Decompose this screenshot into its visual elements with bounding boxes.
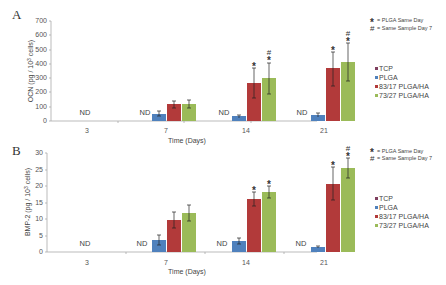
svg-text:= Same Sample Day 7: = Same Sample Day 7 <box>377 25 432 31</box>
chart-b-x-ticks: 3 7 14 21 <box>85 259 328 266</box>
svg-text:*: * <box>267 179 271 190</box>
svg-text:200: 200 <box>35 88 47 95</box>
nd-label: ND <box>140 108 151 117</box>
nd-label: ND <box>297 108 308 117</box>
chart-b-notes: * = PLGA Same Day # = Same Sample Day 7 <box>370 147 432 163</box>
svg-text:14: 14 <box>242 259 250 266</box>
svg-text:14: 14 <box>242 127 250 134</box>
panel-label-b: B <box>12 143 21 158</box>
svg-text:*: * <box>331 160 335 171</box>
svg-text:PLGA: PLGA <box>379 74 398 81</box>
chart-a-x-label: Time (Days) <box>168 137 206 145</box>
svg-text:400: 400 <box>35 60 47 67</box>
svg-text:= PLGA Same Day: = PLGA Same Day <box>377 148 424 154</box>
panel-label-a: A <box>12 7 22 22</box>
nd-label: ND <box>296 239 307 248</box>
svg-text:7: 7 <box>164 259 168 266</box>
chart-a-significance: * * # * * # <box>252 29 351 72</box>
svg-text:#: # <box>346 144 351 153</box>
chart-a-notes: * = PLGA Same Day # = Same Sample Day 7 <box>370 17 432 33</box>
svg-text:73/27 PLGA/HA: 73/27 PLGA/HA <box>379 92 429 99</box>
chart-b-x-label: Time (Days) <box>168 268 206 276</box>
svg-text:21: 21 <box>320 259 328 266</box>
chart-b-bars <box>152 168 355 252</box>
svg-text:*: * <box>252 185 256 196</box>
svg-text:*: * <box>331 45 335 56</box>
svg-text:15: 15 <box>35 199 43 206</box>
svg-text:*: * <box>252 61 256 72</box>
svg-text:73/27 PLGA/HA: 73/27 PLGA/HA <box>379 222 429 229</box>
svg-text:#: # <box>370 154 375 163</box>
figure: A 0 100 200 300 400 500 600 700 OCN (pg … <box>0 0 446 285</box>
chart-b-y-label: BMP-2 (pg / 103 cells) <box>23 168 32 236</box>
nd-label: ND <box>137 239 148 248</box>
svg-text:3: 3 <box>85 127 89 134</box>
svg-text:600: 600 <box>35 31 47 38</box>
svg-text:20: 20 <box>35 182 43 189</box>
svg-text:0: 0 <box>39 248 43 255</box>
svg-text:25: 25 <box>35 166 43 173</box>
svg-text:TCP: TCP <box>379 195 393 202</box>
svg-text:100: 100 <box>35 103 47 110</box>
svg-text:= PLGA Same Day: = PLGA Same Day <box>377 17 424 23</box>
svg-text:5: 5 <box>39 232 43 239</box>
svg-text:83/17 PLGA/HA: 83/17 PLGA/HA <box>379 83 429 90</box>
nd-label: ND <box>80 239 91 248</box>
svg-text:#: # <box>370 24 375 33</box>
svg-text:83/17 PLGA/HA: 83/17 PLGA/HA <box>379 213 429 220</box>
chart-a-y-label: OCN (pg / 103 cells) <box>26 40 35 102</box>
svg-text:30: 30 <box>35 149 43 156</box>
svg-text:#: # <box>346 29 351 38</box>
svg-text:300: 300 <box>35 74 47 81</box>
svg-text:0: 0 <box>43 117 47 124</box>
svg-text:500: 500 <box>35 46 47 53</box>
nd-label: ND <box>80 108 91 117</box>
svg-text:PLGA: PLGA <box>379 204 398 211</box>
chart-b-legend: TCP PLGA 83/17 PLGA/HA 73/27 PLGA/HA <box>375 195 429 229</box>
chart-a-legend: TCP PLGA 83/17 PLGA/HA 73/27 PLGA/HA <box>375 65 429 99</box>
nd-label: ND <box>219 108 230 117</box>
svg-text:7: 7 <box>164 127 168 134</box>
svg-text:= Same Sample Day 7: = Same Sample Day 7 <box>377 155 432 161</box>
svg-text:3: 3 <box>85 259 89 266</box>
svg-text:#: # <box>267 48 272 57</box>
svg-text:700: 700 <box>35 17 47 24</box>
svg-text:TCP: TCP <box>379 65 393 72</box>
svg-text:10: 10 <box>35 215 43 222</box>
svg-text:21: 21 <box>320 127 328 134</box>
chart-a-x-ticks: 3 7 14 21 <box>85 127 328 134</box>
nd-label: ND <box>217 239 228 248</box>
